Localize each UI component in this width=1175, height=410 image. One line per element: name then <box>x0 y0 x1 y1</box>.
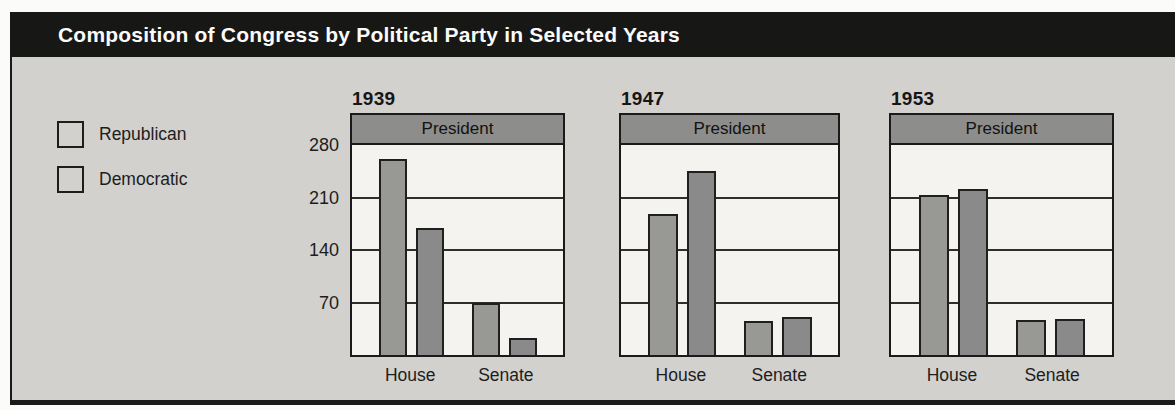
chart-1953: 1953 President HouseSenate <box>889 84 1114 394</box>
bar-1947-senate-republican <box>782 317 811 355</box>
y-axis: 28021014070 <box>279 57 339 400</box>
x-axis-labels-1953: HouseSenate <box>889 365 1114 389</box>
y-tick-210: 210 <box>279 187 339 209</box>
bar-1953-senate-democratic <box>1016 320 1046 355</box>
x-label-1939-senate: Senate <box>478 365 533 386</box>
y-tick-280: 280 <box>279 134 339 156</box>
plot-area-1947: President <box>619 113 840 357</box>
bar-1953-senate-republican <box>1055 319 1085 355</box>
bar-1947-house-republican <box>687 171 716 356</box>
legend-item-republican: Republican <box>57 121 188 148</box>
plot-area-1939: President <box>350 113 565 357</box>
x-label-1939-house: House <box>385 365 436 386</box>
bar-1939-senate-republican <box>509 338 537 355</box>
gridline-210 <box>621 197 838 199</box>
president-banner-1947: President <box>621 115 838 145</box>
figure-panel: Republican Democratic 28021014070 1939 P… <box>10 57 1175 405</box>
page-title: Composition of Congress by Political Par… <box>10 12 1175 58</box>
figure-title-bar: Composition of Congress by Political Par… <box>10 12 1175 57</box>
x-axis-labels-1947: HouseSenate <box>619 365 840 389</box>
bar-1939-house-republican <box>416 228 444 355</box>
president-banner-1939: President <box>352 115 563 145</box>
republican-swatch <box>57 121 84 148</box>
bar-1953-house-democratic <box>919 195 949 355</box>
plot-area-1953: President <box>889 113 1114 357</box>
plot-body-1953 <box>891 145 1112 355</box>
democratic-swatch <box>57 166 84 193</box>
year-label-1947: 1947 <box>621 88 664 110</box>
x-label-1953-senate: Senate <box>1024 365 1079 386</box>
chart-1939: 1939 President HouseSenate <box>350 84 565 394</box>
chart-1947: 1947 President HouseSenate <box>619 84 840 394</box>
bar-1947-house-democratic <box>648 214 677 355</box>
y-tick-140: 140 <box>279 239 339 261</box>
legend-label-republican: Republican <box>99 124 187 145</box>
bar-1947-senate-democratic <box>744 321 773 355</box>
x-label-1947-house: House <box>656 365 707 386</box>
x-label-1947-senate: Senate <box>751 365 806 386</box>
bar-1939-senate-democratic <box>472 303 500 355</box>
y-tick-70: 70 <box>279 292 339 314</box>
plot-body-1947 <box>621 145 838 355</box>
legend-label-democratic: Democratic <box>99 169 188 190</box>
x-label-1953-house: House <box>927 365 978 386</box>
bar-1939-house-democratic <box>379 159 407 356</box>
legend-item-democratic: Democratic <box>57 166 188 193</box>
bar-1953-house-republican <box>958 189 988 355</box>
x-axis-labels-1939: HouseSenate <box>350 365 565 389</box>
president-banner-1953: President <box>891 115 1112 145</box>
plot-body-1939 <box>352 145 563 355</box>
legend: Republican Democratic <box>57 121 188 211</box>
year-label-1939: 1939 <box>352 88 395 110</box>
year-label-1953: 1953 <box>891 88 934 110</box>
